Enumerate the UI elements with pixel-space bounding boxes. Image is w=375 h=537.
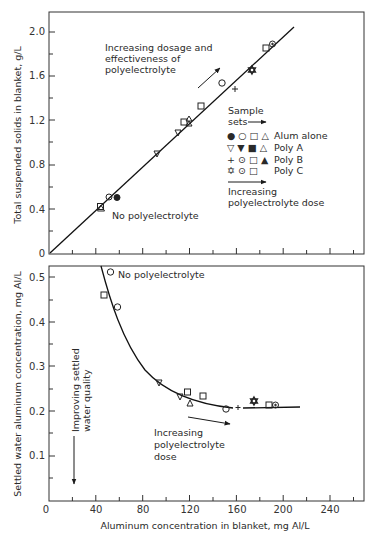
point-open-square [185,389,191,395]
point-star [251,397,258,405]
legend-symbols: ✡ ⊙ □ [227,165,258,176]
top-annotation-dosage: Increasing dosage and effectiveness of p… [105,42,220,88]
top-y-ticks [49,32,55,231]
ytick-label: 0.8 [29,159,45,170]
point-open-circle [107,269,113,275]
ytick-label: 0.5 [29,272,45,283]
bottom-x-ticks [72,495,353,501]
bottom-y-axis-label: Settled water aluminum concentration, mg… [12,271,23,497]
legend-label-poly-a: Poly A [274,142,303,153]
xtick-label: 200 [273,504,292,515]
ytick-label: 1.6 [29,70,45,81]
increasing-dose-label: Increasing [154,427,203,438]
top-x-ticks [72,248,353,254]
point-open-triangle [187,400,193,406]
legend-symbols: + ⊙ □ ▲ [227,154,269,165]
ytick-label: 0 [39,248,45,259]
ytick-label: 0.3 [29,361,45,372]
ytick-label: 0.1 [29,450,45,461]
legend-footer: polyelectrolyte dose [228,197,325,208]
point-open-circle [219,80,225,86]
legend-header: Sample [228,105,264,116]
point-plus [232,86,238,92]
bottom-x-tick-labels: 0 40 80 120 160 200 240 [43,504,340,515]
legend-label-poly-c: Poly C [274,165,303,176]
xtick-label: 0 [43,504,49,515]
annotation-text: polyelectrolyte [105,64,176,75]
point-open-circle [114,304,120,310]
legend-header: sets [228,116,248,127]
legend-footer: Increasing [228,186,277,197]
annotation-text: Increasing dosage and [105,42,212,53]
legend-symbols: ● ○ □ △ [227,130,270,141]
top-y-axis-label: Total suspended solids in blanket, g/L [12,46,23,225]
point-star [249,66,256,74]
bottom-fit-curve [101,266,233,408]
top-y-tick-labels: 0 0.4 0.8 1.2 1.6 2.0 [29,26,45,259]
increasing-dose-label: polyelectrolyte [154,439,225,450]
point-open-square [200,393,206,399]
bottom-y-tick-labels: 0.1 0.2 0.3 0.4 0.5 [29,272,45,461]
point-open-square [101,292,107,298]
ytick-label: 1.2 [29,115,45,126]
top-panel: 0 0.4 0.8 1.2 1.6 2.0 Total suspended so… [12,12,364,259]
improving-quality-label: Improving settled [70,348,81,432]
figure: 0 0.4 0.8 1.2 1.6 2.0 Total suspended so… [0,0,375,537]
no-polyelectrolyte-label: No polyelectrolyte [118,269,205,280]
bottom-panel: 0.1 0.2 0.3 0.4 0.5 0 40 80 120 160 200 … [12,266,364,531]
ytick-label: 2.0 [29,26,45,37]
improving-quality-label: water quality [81,369,92,432]
increasing-dose-label: dose [154,451,177,462]
annotation-text: effectiveness of [105,53,181,64]
no-polyelectrolyte-label: No polyelectrolyte [112,210,199,221]
bottom-y-ticks [49,277,55,478]
legend-label-alum-alone: Alum alone [274,130,328,141]
ytick-label: 0.4 [29,317,45,328]
xtick-label: 240 [320,504,339,515]
xtick-label: 120 [180,504,199,515]
arrow-up-right-icon [198,68,220,88]
ytick-label: 0.4 [29,204,45,215]
point-plus [236,405,241,410]
x-axis-label: Aluminum concentration in blanket, mg Al… [100,520,310,531]
arrow-right-icon [188,417,230,424]
point-open-square [198,103,204,109]
xtick-label: 160 [227,504,246,515]
bottom-plot-frame [49,266,364,501]
ytick-label: 0.2 [29,406,45,417]
legend: Sample sets ● ○ □ △ Alum alone ▽ ▼ ■ △ P… [227,105,328,208]
legend-label-poly-b: Poly B [274,154,303,165]
legend-symbols: ▽ ▼ ■ △ [227,142,268,153]
point-open-square [263,45,269,51]
xtick-label: 40 [90,504,103,515]
xtick-label: 80 [137,504,150,515]
point-filled-circle [114,195,120,201]
